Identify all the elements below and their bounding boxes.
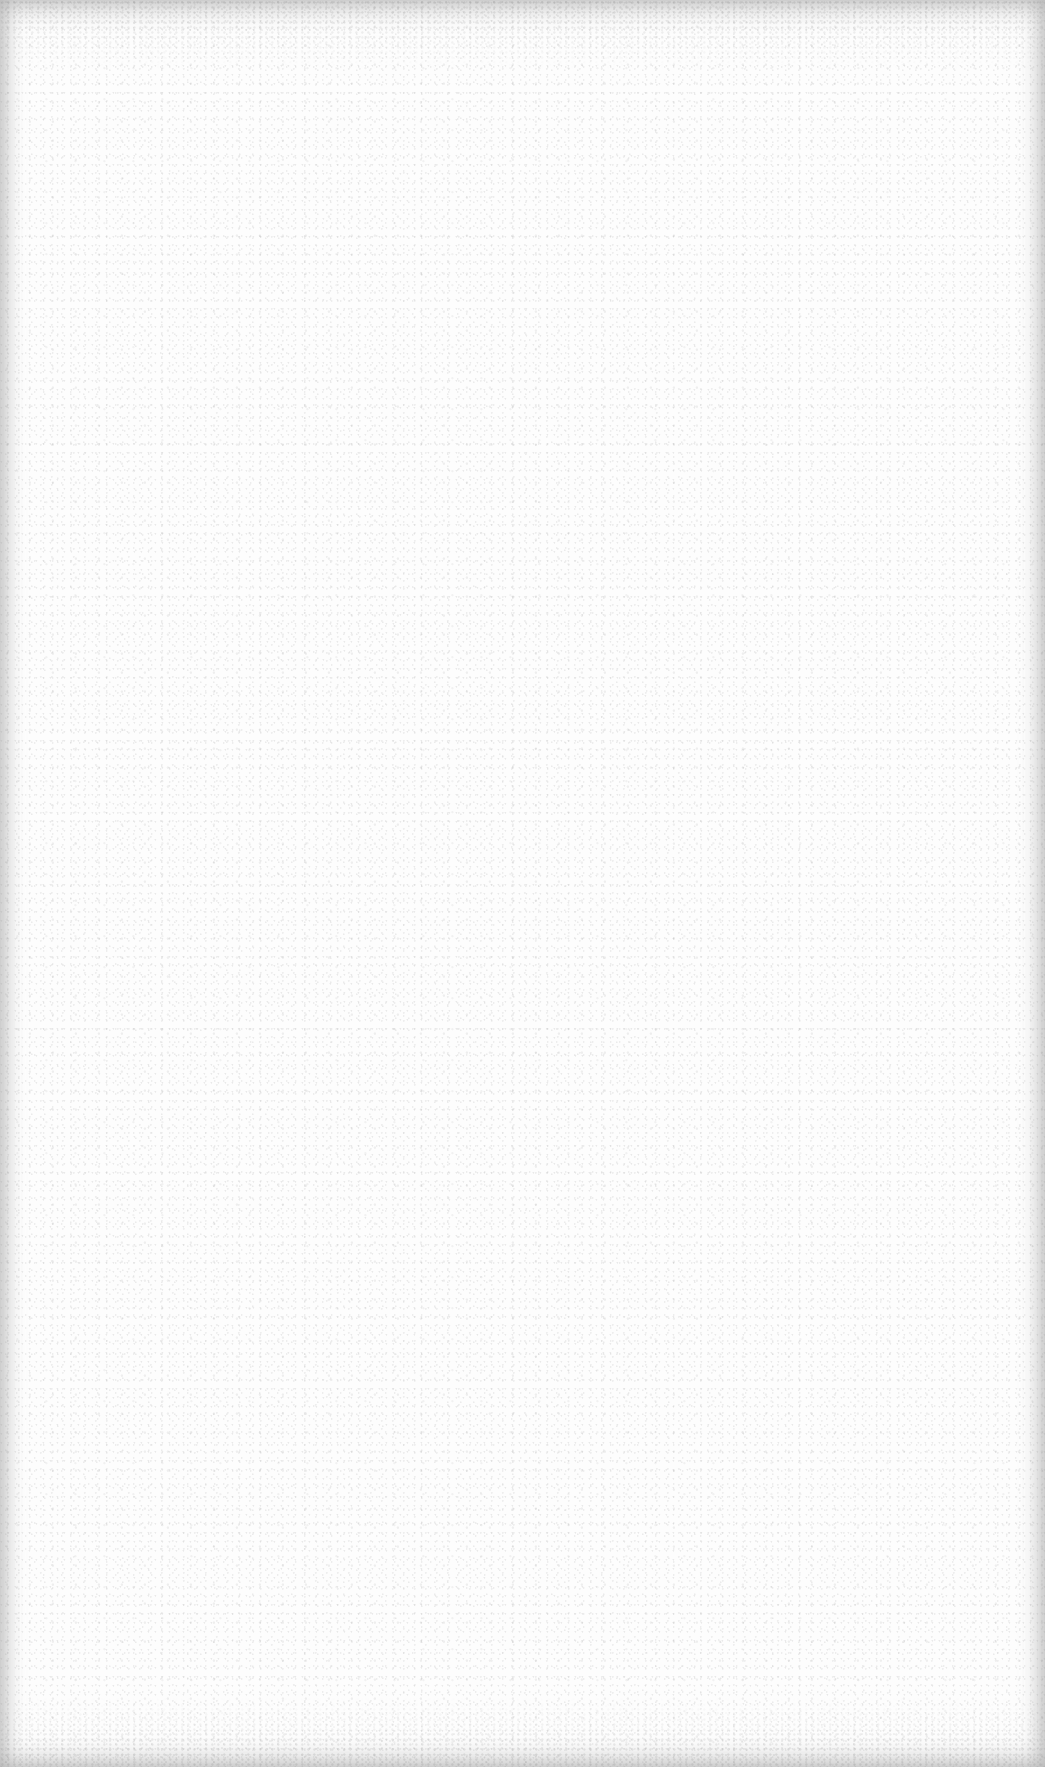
paper-grain-coarse-texture xyxy=(0,0,1045,1767)
paper-bottom-edge-texture xyxy=(0,1697,1045,1767)
paper-top-edge-texture xyxy=(0,0,1045,70)
blank-paper-page xyxy=(0,0,1045,1767)
